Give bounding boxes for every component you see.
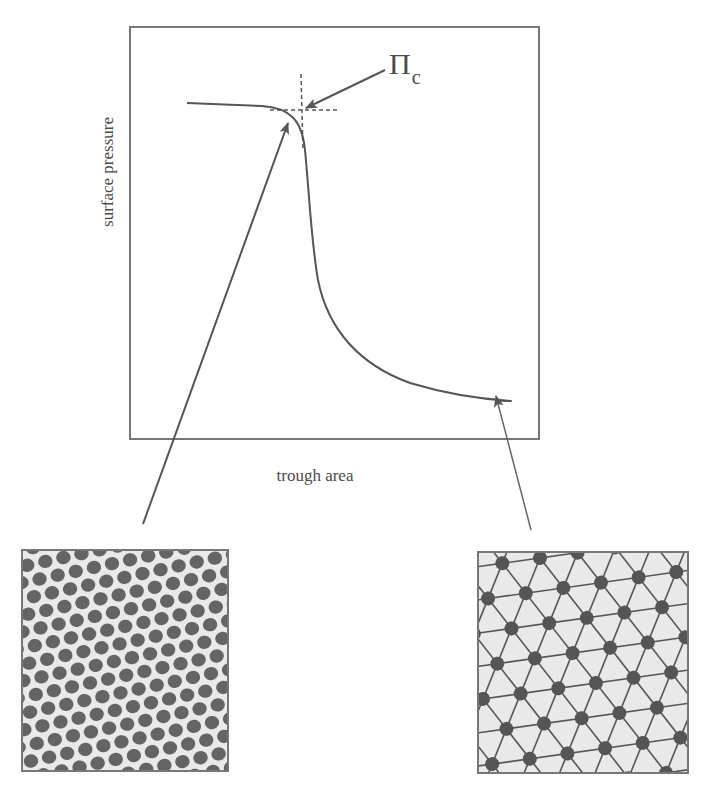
- plot-frame: [130, 27, 539, 439]
- triangular-network-pattern: [479, 553, 687, 772]
- critical-pressure-arrow: [306, 70, 385, 108]
- close-packed-inset-image: [21, 549, 229, 772]
- isotherm-curve: [187, 103, 511, 401]
- pi-subscript: c: [412, 66, 421, 88]
- critical-pressure-label: Πc: [389, 49, 420, 79]
- dashed-vertical-tangent: [301, 74, 303, 150]
- network-inset-image: [477, 551, 689, 774]
- left-inset-arrow: [143, 123, 288, 524]
- right-inset-arrow: [496, 396, 531, 530]
- diagram-stage: surface pressure trough area Πc: [0, 0, 711, 793]
- hexagonal-dot-pattern: [23, 551, 227, 770]
- x-axis-label: trough area: [277, 466, 354, 486]
- pi-symbol: Π: [389, 47, 411, 80]
- y-axis-label: surface pressure: [98, 117, 118, 227]
